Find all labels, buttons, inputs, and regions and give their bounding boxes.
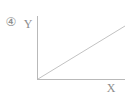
proportional-line-series [38, 26, 125, 79]
x-axis-label: X [105, 81, 117, 96]
y-axis-label: Y [22, 17, 34, 32]
figure-container: ④ Y X [0, 0, 125, 98]
